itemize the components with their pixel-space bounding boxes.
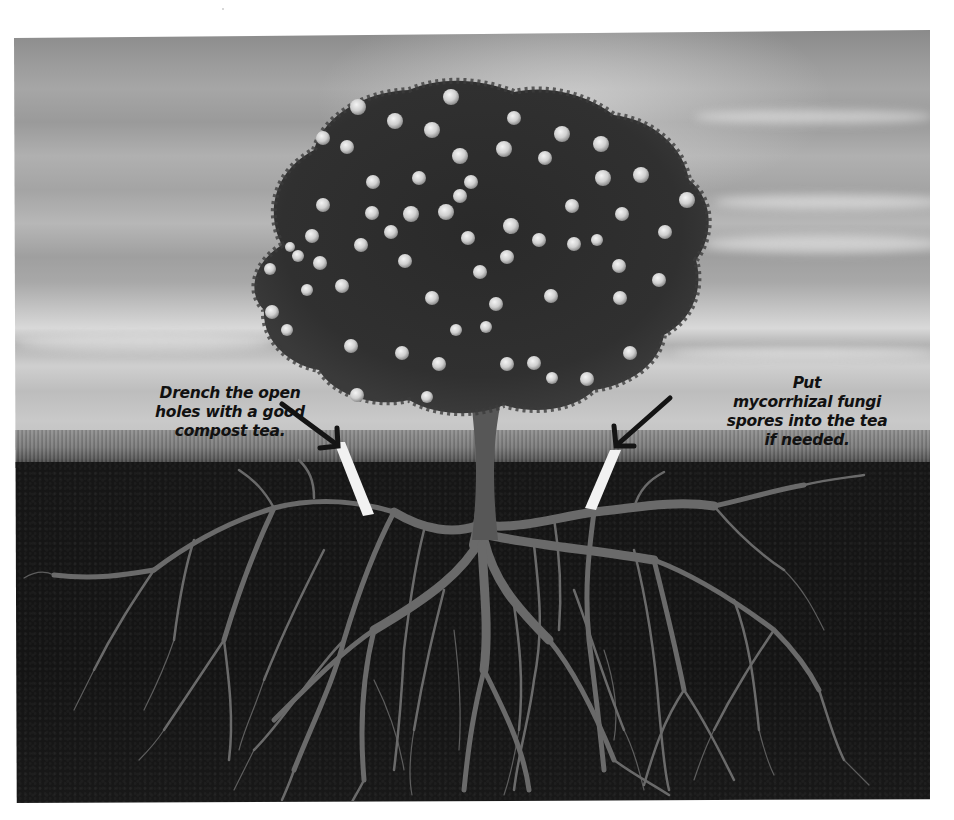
- annotation-right-line-1: Put: [699, 374, 915, 393]
- stray-mark: [222, 8, 224, 10]
- arrow-down-left-icon: [618, 398, 670, 444]
- annotation-right-line-3: spores into the tea: [699, 412, 915, 431]
- annotation-left-line-3: compost tea.: [130, 422, 330, 441]
- bleed-through-text: [600, 810, 920, 818]
- root-system: [24, 460, 869, 802]
- annotation-right-line-2: mycorrhizal fungi: [699, 393, 915, 412]
- annotation-right: Put mycorrhizal fungi spores into the te…: [699, 374, 915, 450]
- tree-crown: [254, 81, 708, 414]
- annotation-left: Drench the open holes with a good compos…: [130, 384, 330, 441]
- annotation-right-line-4: if needed.: [699, 431, 915, 450]
- annotation-left-line-1: Drench the open: [130, 384, 330, 403]
- hole-tube-right: [585, 450, 621, 510]
- annotation-left-line-2: holes with a good: [130, 403, 330, 422]
- arrow-right: [614, 398, 670, 446]
- tree-root-illustration: Drench the open holes with a good compos…: [14, 30, 930, 803]
